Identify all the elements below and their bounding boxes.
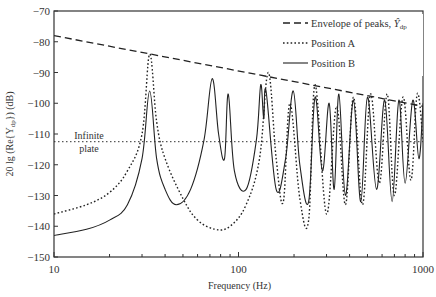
frequency-response-chart: −150−140−130−120−110−100−90−80−701010010…: [0, 0, 436, 297]
y-tick-label: −70: [33, 5, 51, 17]
infinite-plate-label: plate: [79, 143, 99, 154]
y-tick-label: −90: [33, 67, 51, 79]
x-tick-label: 10: [49, 263, 61, 275]
y-tick-label: −140: [27, 220, 50, 232]
y-tick-label: −120: [27, 159, 50, 171]
infinite-plate-label: Infinite: [74, 130, 104, 141]
y-tick-label: −150: [27, 251, 50, 263]
legend-label: Position A: [311, 38, 355, 49]
x-tick-label: 100: [230, 263, 247, 275]
x-axis-title: Frequency (Hz): [208, 280, 271, 292]
y-axis-title: 20 lg (Re{Ydp}) (dB): [4, 91, 17, 176]
y-tick-label: −80: [33, 36, 51, 48]
y-tick-label: −100: [27, 97, 50, 109]
series-solid-line: [54, 79, 423, 236]
y-tick-label: −110: [28, 128, 51, 140]
y-tick-label: −130: [27, 190, 50, 202]
x-tick-label: 1000: [412, 263, 435, 275]
legend: Envelope of peaks, ŶdpPosition APosition…: [281, 14, 423, 76]
legend-label: Position B: [311, 58, 355, 69]
